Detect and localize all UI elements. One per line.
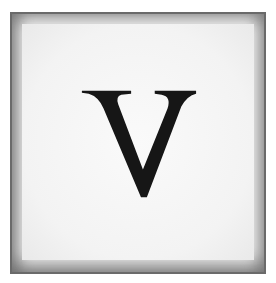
letter-tile: V <box>10 12 266 274</box>
letter-v-glyph: V <box>12 14 264 272</box>
